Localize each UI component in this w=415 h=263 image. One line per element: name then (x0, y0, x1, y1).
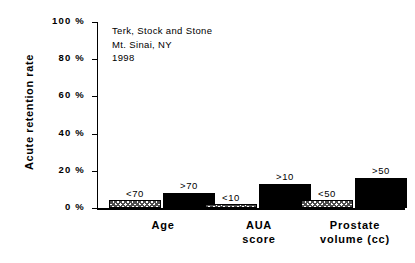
bar-chart: Acute retention rate 100 % 80 % 60 % 40 … (0, 0, 415, 263)
y-tick-label-0: 0 % (65, 201, 85, 212)
y-tick-label-100: 100 % (52, 15, 85, 26)
bar-aua-low: <10 (205, 204, 257, 208)
bar-label-volume-low: <50 (318, 188, 336, 199)
bar-volume-high: >50 (355, 178, 407, 208)
y-tick-40: 40 % (92, 134, 98, 135)
annotation-line-3: 1998 (112, 51, 212, 65)
y-tick-label-60: 60 % (59, 89, 85, 100)
category-label-volume-line2: volume (cc) (320, 232, 390, 246)
chart-annotation: Terk, Stock and Stone Mt. Sinai, NY 1998 (112, 24, 212, 65)
y-tick-60: 60 % (92, 96, 98, 97)
category-label-aua: AUA score (242, 218, 275, 246)
y-axis-title: Acute retention rate (23, 17, 35, 207)
category-label-age-line1: Age (151, 218, 174, 232)
y-tick-label-80: 80 % (59, 52, 85, 63)
y-axis-line (97, 22, 98, 208)
category-label-aua-line2: score (242, 232, 275, 246)
category-label-aua-line1: AUA (242, 218, 275, 232)
y-tick-0: 0 % (92, 208, 98, 209)
bar-label-volume-high: >50 (372, 165, 390, 176)
y-tick-80: 80 % (92, 59, 98, 60)
y-tick-label-20: 20 % (59, 164, 85, 175)
x-axis-line (97, 208, 405, 210)
bar-label-aua-high: >10 (276, 171, 294, 182)
bar-label-aua-low: <10 (222, 192, 240, 203)
y-tick-label-40: 40 % (59, 127, 85, 138)
category-label-volume: Prostate volume (cc) (320, 218, 390, 246)
annotation-line-1: Terk, Stock and Stone (112, 24, 212, 38)
bar-label-age-high: >70 (180, 180, 198, 191)
y-tick-100: 100 % (92, 22, 98, 23)
category-label-age: Age (151, 218, 174, 232)
annotation-line-2: Mt. Sinai, NY (112, 38, 212, 52)
bar-age-low: <70 (109, 200, 161, 208)
y-tick-20: 20 % (92, 171, 98, 172)
bar-label-age-low: <70 (126, 188, 144, 199)
category-label-volume-line1: Prostate (320, 218, 390, 232)
bar-volume-low: <50 (301, 200, 353, 208)
